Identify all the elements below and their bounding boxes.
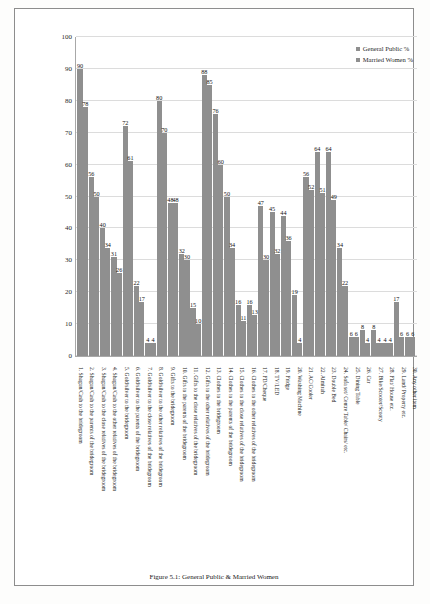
bar: 4 (297, 343, 302, 356)
category-label-text: 30. Any other item (412, 367, 418, 409)
bar-value-label: 31 (111, 250, 117, 257)
bar-value-label: 16 (246, 298, 252, 305)
bar-group: 7660 (213, 37, 224, 356)
bar-group: 1510 (190, 37, 201, 356)
y-axis-tick-label: 20 (65, 288, 76, 296)
bar-group: 1613 (246, 37, 257, 356)
bar-value-label: 8 (361, 323, 364, 330)
category-label: 23. Double Bed (329, 367, 341, 557)
bar-value-label: 6 (406, 330, 409, 337)
category-label: 8. Gold/silver to the other relatives of… (156, 367, 168, 557)
bar-group: 9078 (77, 37, 88, 356)
bar-value-label: 16 (235, 298, 241, 305)
bar-group: 1611 (235, 37, 246, 356)
bar: 85 (207, 85, 212, 356)
bar-value-label: 50 (224, 190, 230, 197)
bar-value-label: 34 (337, 241, 343, 248)
y-axis-tick-label: 90 (65, 65, 76, 73)
category-label-text: 15. Clothes to the close relatives of th… (239, 367, 245, 482)
bar-group: 3126 (111, 37, 122, 356)
category-label-text: 25. Dining Table (355, 367, 361, 405)
category-label-text: 6. Gold/silver to the parents of the bri… (135, 367, 141, 471)
bar: 34 (105, 248, 110, 356)
bar: 61 (128, 161, 133, 356)
bar: 4 (150, 343, 155, 356)
category-label: 3. Shagun/Cash to the close relatives of… (98, 367, 110, 557)
category-label: 6. Gold/silver to the parents of the bri… (133, 367, 145, 557)
bar: 60 (218, 165, 223, 356)
category-label: 16. Clothes to the other relatives of th… (248, 367, 260, 557)
category-label-text: 8. Gold/silver to the other relatives of… (158, 367, 164, 487)
y-axis-tick-label: 50 (65, 193, 76, 201)
category-label-text: 1. Shagun/Cash to the bridegroom (78, 367, 84, 444)
y-axis-tick-label: 0 (69, 352, 77, 360)
bar-value-label: 15 (190, 301, 196, 308)
figure-caption: Figure 5.1: General Public & Married Wom… (15, 573, 413, 581)
bar-value-label: 64 (325, 145, 331, 152)
bar-group: 84 (371, 37, 382, 356)
category-label: 26. Car (363, 367, 375, 557)
bar: 48 (173, 203, 178, 356)
y-axis-tick-label: 70 (65, 129, 76, 137)
chart-area: General Public %Married Women % 01020304… (39, 27, 421, 367)
bar-group: 176 (393, 37, 404, 356)
bar: 11 (241, 321, 246, 356)
category-label: 24. Sofa set/ Centre Table/ Chairs/ etc. (340, 367, 352, 557)
page-frame: General Public %Married Women % 01020304… (14, 8, 414, 586)
category-label-text: 26. Car (366, 367, 372, 383)
category-label-text: 22. Almirah (320, 367, 326, 394)
bar-group: 4436 (280, 37, 291, 356)
bar: 6 (399, 337, 404, 356)
bar: 6 (410, 337, 415, 356)
bar-value-label: 6 (400, 330, 403, 337)
category-label: 2. Shagun/Cash to the parents of the bri… (87, 367, 99, 557)
bar-value-label: 4 (389, 336, 392, 343)
bar-value-label: 56 (303, 170, 309, 177)
bar-value-label: 4 (384, 336, 387, 343)
bar-group: 8885 (201, 37, 212, 356)
y-axis-tick-label: 60 (65, 161, 76, 169)
bar-value-label: 19 (292, 288, 298, 295)
bar: 26 (117, 273, 122, 356)
category-label-text: 20. Washing Machine (297, 367, 303, 416)
category-label: 10. Gifts to the parents of the bridegro… (179, 367, 191, 557)
category-label: 17. FD/Cheque (260, 367, 272, 557)
bar-value-label: 4 (366, 336, 369, 343)
bar-value-label: 4 (146, 336, 149, 343)
bar-value-label: 6 (350, 330, 353, 337)
category-label-text: 17. FD/Cheque (262, 367, 268, 401)
category-label-text: 3. Shagun/Cash to the close relatives of… (101, 367, 107, 491)
bar-value-label: 76 (213, 107, 219, 114)
bar: 30 (184, 260, 189, 356)
bar-group: 2217 (133, 37, 144, 356)
category-label: 14. Clothes to the parents of the brideg… (225, 367, 237, 557)
bar-value-label: 6 (355, 330, 358, 337)
bar: 4 (388, 343, 393, 356)
bar: 10 (196, 324, 201, 356)
category-label: 13. Clothes to the bridegroom (213, 367, 225, 557)
bar-value-label: 45 (269, 205, 275, 212)
plot-area: 0102030405060708090100 90785650403431267… (75, 37, 417, 357)
category-label-text: 29. Land/ Property etc. (401, 367, 407, 418)
chart-page: General Public %Married Women % 01020304… (0, 0, 430, 604)
bar-value-label: 47 (258, 199, 264, 206)
bar: 4 (365, 343, 370, 356)
bar-group: 4532 (269, 37, 280, 356)
bar-value-label: 4 (377, 336, 380, 343)
bar: 32 (275, 254, 280, 356)
bar-group: 84 (359, 37, 370, 356)
bar: 6 (354, 337, 359, 356)
category-label-text: 23. Double Bed (331, 367, 337, 402)
bar-value-label: 4 (151, 336, 154, 343)
bar-group: 66 (405, 37, 416, 356)
category-label-text: 14. Clothes to the parents of the brideg… (228, 367, 234, 466)
y-axis-tick-label: 10 (65, 320, 76, 328)
bar-group: 5034 (224, 37, 235, 356)
category-label: 5. Gold/silver to the bridegroom (121, 367, 133, 557)
y-axis-tick-label: 80 (65, 97, 76, 105)
bar: 4 (376, 343, 381, 356)
bar: 52 (309, 190, 314, 356)
category-label: 19. Fridge (283, 367, 295, 557)
bar-group: 194 (292, 37, 303, 356)
y-axis-tick-label: 30 (65, 256, 76, 264)
